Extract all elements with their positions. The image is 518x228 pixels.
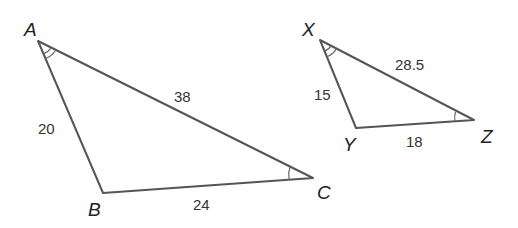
- vertex-y-label: Y: [343, 134, 357, 155]
- side-xz-length: 28.5: [395, 56, 424, 73]
- angle-a-arc-inner: [44, 48, 51, 54]
- vertex-b-label: B: [88, 199, 101, 220]
- similar-triangles-diagram: A B C 20 38 24 X Y Z 15 28.5 18: [0, 0, 518, 228]
- vertex-z-label: Z: [480, 126, 494, 147]
- side-bc-length: 24: [193, 196, 210, 213]
- side-ab-length: 20: [38, 120, 55, 137]
- vertex-c-label: C: [317, 182, 331, 203]
- angle-z-arc: [455, 112, 456, 122]
- triangle-abc: [38, 41, 313, 193]
- side-ac-length: 38: [174, 88, 191, 105]
- side-yz-length: 18: [406, 133, 423, 150]
- angle-x-arc-inner: [325, 46, 332, 52]
- triangle-xyz: [320, 40, 474, 128]
- angle-c-arc: [289, 167, 290, 180]
- vertex-x-label: X: [301, 19, 316, 40]
- diagram-svg: A B C 20 38 24 X Y Z 15 28.5 18: [0, 0, 518, 228]
- vertex-a-label: A: [23, 19, 37, 40]
- side-xy-length: 15: [314, 86, 331, 103]
